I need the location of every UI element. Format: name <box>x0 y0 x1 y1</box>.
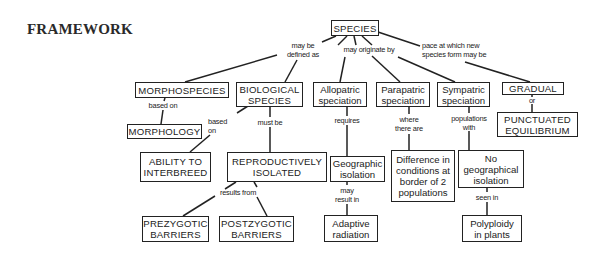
node-morphology: MORPHOLOGY <box>127 124 202 139</box>
link-label-based-on-morphology: based on <box>141 101 185 110</box>
node-morphospecies: MORPHOSPECIES <box>135 82 229 98</box>
link-label-may-be-defined-as: may be defined as <box>283 41 323 59</box>
node-postzygotic-barriers: POSTZYGOTIC BARRIERS <box>219 216 294 242</box>
node-species: SPECIES <box>331 20 379 36</box>
link-label-results-from: results from <box>213 188 263 197</box>
node-sympatric-speciation: Sympatric speciation <box>437 82 490 107</box>
node-reproductively-isolated: REPRODUCTIVELY ISOLATED <box>227 152 327 182</box>
link-label-may-originate-by: may originate by <box>334 45 404 54</box>
node-polyploidy-in-plants: Polyploidy in plants <box>462 215 522 242</box>
node-gradual: GRADUAL <box>502 82 564 95</box>
link-label-must-be: must be <box>254 118 286 127</box>
link-label-populations-with: populations with <box>448 114 490 132</box>
link-label-may-result-in: may result in <box>330 186 364 204</box>
link-label-requires: requires <box>330 116 364 125</box>
link-label-where-there-are: where there are <box>392 115 426 133</box>
node-biological-species: BIOLOGICAL SPECIES <box>236 82 303 107</box>
link-label-based-on-interbreed: based on <box>208 117 236 135</box>
link-label-seen-in: seen in <box>470 193 504 202</box>
node-prezygotic-barriers: PREZYGOTIC BARRIERS <box>142 216 209 242</box>
node-no-geographical-isolation: No geographical isolation <box>458 150 524 188</box>
node-allopatric-speciation: Allopatric speciation <box>313 82 367 107</box>
node-punctuated-equilibrium: PUNCTUATED EQUILIBRIUM <box>497 112 578 137</box>
node-parapatric-speciation: Parapatric speciation <box>376 82 430 107</box>
node-ability-to-interbreed: ABILITY TO INTERBREED <box>140 152 211 182</box>
link-label-or: or <box>522 96 542 105</box>
node-difference-in-conditions: Difference in conditions at border of 2 … <box>391 150 455 202</box>
node-geographic-isolation: Geographic isolation <box>330 156 385 182</box>
link-label-pace: pace at which new species form may be <box>422 41 502 59</box>
node-adaptive-radiation: Adaptive radiation <box>324 215 378 242</box>
